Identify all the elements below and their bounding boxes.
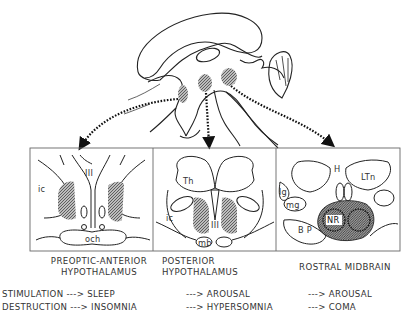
effects-posterior: ---> AROUSAL ---> HYPERSOMNIA (186, 288, 273, 314)
effect-preoptic-destruction: INSOMNIA (91, 302, 137, 312)
hatched-preoptic-right (108, 182, 124, 222)
panel-title-posterior: POSTERIOR HYPOTHALAMUS (162, 256, 252, 278)
panel-title-midbrain: ROSTRAL MIDBRAIN (290, 262, 400, 273)
hatched-posterior-left (193, 198, 209, 234)
panel-preoptic-drawing (38, 155, 145, 228)
label-red-nucleus: NR (327, 215, 339, 225)
effect-midbrain-destruction: COMA (329, 302, 356, 312)
effect-posterior-destruction: HYPERSOMNIA (207, 302, 273, 312)
region-rostral-midbrain (221, 68, 237, 86)
dotted-arrows (82, 86, 330, 145)
effects-labels: STIMULATION ---> SLEEP DESTRUCTION ---> … (2, 288, 137, 314)
red-nucleus-right (348, 209, 370, 231)
effect-posterior-stimulation: AROUSAL (207, 289, 250, 299)
label-lateral-thalamus: LTn (361, 172, 376, 182)
label-mammillary-body: mb (198, 238, 212, 248)
region-preoptic (178, 85, 188, 103)
effect-midbrain-stimulation: AROUSAL (329, 289, 372, 299)
label-internal-capsule-1: ic (38, 184, 45, 194)
effect-preoptic-stimulation: SLEEP (87, 289, 115, 299)
label-lateral-geniculate: lg (279, 187, 287, 197)
label-optic-chiasm: och (85, 234, 101, 244)
effects-midbrain: ---> AROUSAL ---> COMA (308, 288, 372, 314)
label-habenula: H (334, 164, 340, 174)
label-medial-geniculate: mg (286, 200, 300, 210)
label-third-ventricle-1: III (85, 168, 93, 178)
label-internal-capsule-2: ic (166, 213, 173, 223)
region-posterior-hypothalamus (198, 74, 212, 92)
hatched-posterior-right (221, 198, 237, 234)
label-thalamus: Th (183, 176, 194, 186)
hatched-preoptic-left (58, 182, 76, 220)
label-basis-pedunculi: B P (298, 225, 312, 235)
label-third-ventricle-2: III (211, 220, 219, 230)
panel-posterior-drawing (156, 156, 274, 247)
panel-title-preoptic: PREOPTIC-ANTERIOR HYPOTHALAMUS (40, 256, 158, 278)
